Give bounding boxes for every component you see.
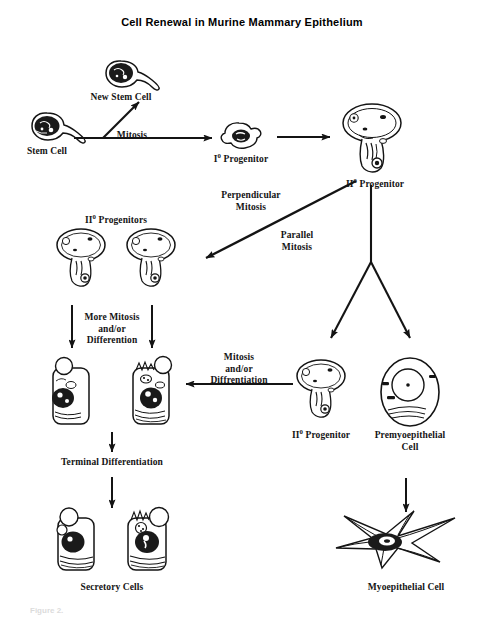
arrow-parallel-mitosis-left [331,262,371,338]
figure-caption: Figure 2. [30,606,63,615]
arrow-parallel-mitosis-right [371,262,410,338]
label-secondary-progenitor-top: II0 Progenitor [346,179,404,191]
cell-secondary-progenitor-top [343,104,401,172]
cell-new-stem-cell [106,61,159,90]
cell-secretory-right [128,508,169,571]
label-myoepithelial-cell: Myoepithelial Cell [368,582,444,594]
label-more-mitosis-differention: More Mitosis and/or Differention [84,312,139,347]
cell-primary-progenitor [221,123,261,148]
diagram-illustration [0,0,484,617]
label-secondary-progenitor-bottom: II0 Progenitor [292,430,350,442]
label-stem-cell: Stem Cell [27,146,67,158]
cell-myoepithelial [336,511,455,568]
label-secondary-progenitor-top-roman: II [346,179,354,189]
cell-differentiating-left [52,358,89,425]
cell-secretory-left [57,508,94,570]
label-mitosis-diffrentiation: Mitosis and/or Diffrentiation [210,352,267,387]
label-secondary-progenitors-left-roman: II [85,215,93,225]
label-secretory-cells: Secretory Cells [81,582,144,594]
label-secondary-progenitor-bottom-roman: II [292,430,300,440]
label-perpendicular-mitosis: Perpendicular Mitosis [221,190,280,213]
label-primary-progenitor-tail: Progenitor [221,154,268,164]
cell-differentiating-right [133,357,172,425]
cell-secondary-progenitor-left-a [57,229,105,286]
cell-premyoepithelial [381,358,439,426]
label-new-stem-cell: New Stem Cell [91,92,152,104]
label-parallel-mitosis: Parallel Mitosis [281,230,313,253]
figure-root: Cell Renewal in Murine Mammary Epitheliu… [0,0,484,617]
label-secondary-progenitor-top-tail: Progenitor [357,179,404,189]
label-secondary-progenitor-bottom-tail: Progenitor [303,430,350,440]
label-secondary-progenitors-left-tail: Progenitors [96,215,147,225]
label-mitosis: Mitosis [117,130,147,142]
label-premyoepithelial-cell: Premyoepithelial Cell [375,430,446,453]
label-secondary-progenitors-left: II0 Progenitors [85,215,147,227]
cell-secondary-progenitor-bottom [297,360,345,417]
label-primary-progenitor: I0 Progenitor [214,154,268,166]
cell-secondary-progenitor-left-b [127,229,175,286]
label-terminal-differentiation: Terminal Differentiation [61,457,163,469]
